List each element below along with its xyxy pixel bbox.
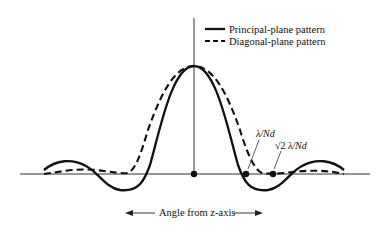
legend-dashed-label: Diagonal-plane pattern bbox=[229, 36, 326, 47]
left-arrow-icon bbox=[125, 210, 133, 216]
null2-rest: λ/Nd bbox=[286, 140, 308, 151]
beam-pattern-diagram: λ/Nd √2 λ/Nd Principal-plane pattern Dia… bbox=[0, 0, 386, 228]
diagonal-null-dot bbox=[270, 171, 276, 177]
origin-dot bbox=[191, 171, 197, 177]
null2-sqrt: √2 bbox=[275, 140, 286, 151]
x-axis-label: Angle from z-axis bbox=[159, 207, 235, 218]
null2-leader bbox=[274, 151, 281, 169]
null1-label: λ/Nd bbox=[255, 128, 276, 139]
right-arrow-icon bbox=[255, 210, 263, 216]
principal-null-dot bbox=[243, 171, 249, 177]
null2-label: √2 λ/Nd bbox=[275, 140, 308, 151]
legend: Principal-plane pattern Diagonal-plane p… bbox=[205, 24, 326, 47]
x-axis-label-group: Angle from z-axis bbox=[125, 207, 263, 218]
legend-solid-label: Principal-plane pattern bbox=[229, 24, 326, 35]
